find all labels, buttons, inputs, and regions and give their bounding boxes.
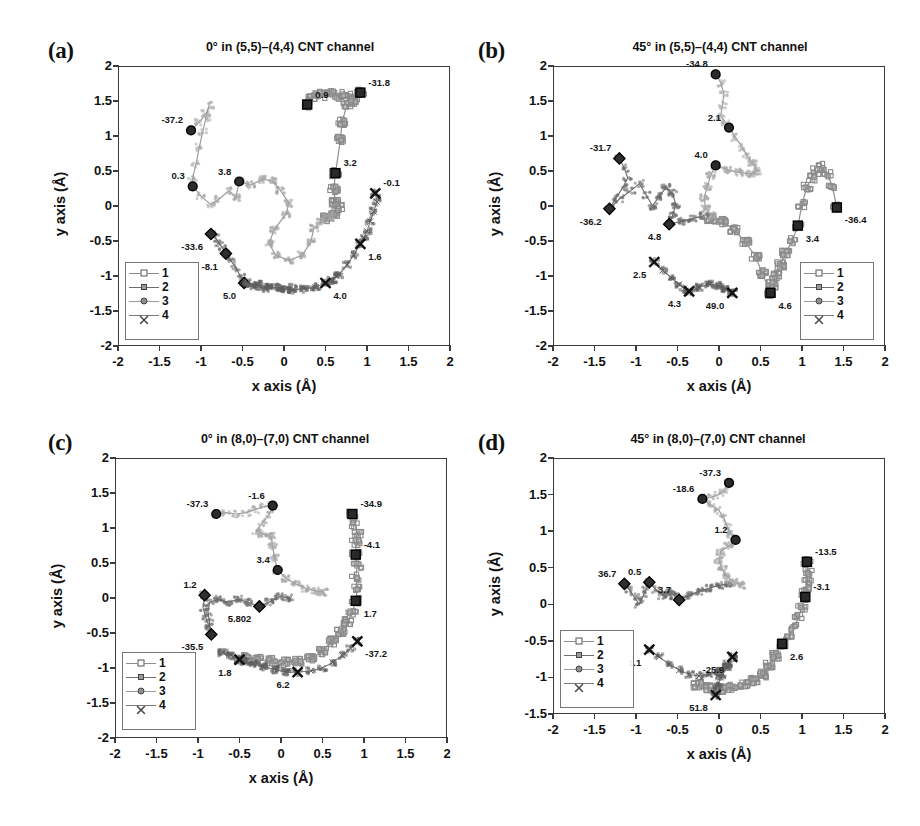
sample-point [807,586,811,590]
sample-point [722,514,725,517]
sample-point [752,677,756,681]
legend-item-1[interactable]: 1 [564,634,628,648]
data-point-label: -3.1 [813,581,847,592]
sample-point [764,675,768,679]
endpoint-marker [698,495,707,504]
legend-item-3[interactable]: 3 [564,662,628,676]
sample-point [716,512,719,515]
sample-point [789,629,793,633]
legend-swatch [564,649,594,661]
sample-point [793,624,797,628]
sample-point [714,490,717,493]
sample-point [774,650,778,654]
legend-label: 3 [597,662,604,676]
sample-point [724,577,727,580]
sample-point [729,579,732,582]
sample-point [720,556,723,559]
endpoint-marker [801,592,810,601]
legend-swatch [564,663,594,675]
sample-point [657,597,660,600]
sample-point [630,593,633,596]
sample-point [728,541,731,544]
legend-label: 4 [597,676,604,690]
sample-point [795,613,799,617]
sample-point [638,598,641,601]
figure-root: (a)0° in (5,5)–(4,4) CNT channel21.510.5… [0,0,920,826]
sample-point [750,682,754,686]
sample-point [799,605,803,609]
sample-point [720,492,723,495]
sample-point [721,690,725,694]
sample-point [720,581,723,584]
sample-point [746,680,750,684]
legend-d: 1234 [560,630,634,708]
sample-point [800,616,804,620]
data-point-label: 51.8 [674,702,708,713]
sample-point [690,591,693,594]
sample-point [635,603,638,606]
sample-point [729,523,732,526]
sample-point [724,583,727,586]
sample-point [714,508,717,511]
sample-point [735,578,738,581]
sample-point [743,685,747,689]
endpoint-marker [802,557,811,566]
sample-point [722,519,725,522]
sample-point [729,545,732,548]
sample-point [724,566,727,569]
sample-point [715,551,718,554]
legend-item-4[interactable]: 4 [564,676,628,690]
sample-point [705,584,708,587]
sample-point [771,655,775,659]
sample-point [670,597,673,600]
sample-point [739,585,742,588]
sample-point [802,578,806,582]
sample-point [701,588,704,591]
sample-point [713,494,716,497]
legend-marker-cross-x-icon [575,679,584,688]
legend-label: 2 [597,648,604,662]
sample-point [790,635,794,639]
sample-point [704,589,707,592]
endpoint-marker [731,536,740,545]
sample-point [716,549,719,552]
sample-point [730,530,733,533]
legend-swatch [564,635,594,647]
sample-point [697,591,700,594]
sample-point [810,568,814,572]
sample-point [694,592,697,595]
sample-point [707,493,710,496]
sample-point [728,575,731,578]
sample-point [709,588,712,591]
data-point-label: 3.7 [637,584,671,595]
legend-label: 1 [597,634,604,648]
data-point-label: 2.6 [790,651,824,662]
data-point-label: -18.6 [660,483,694,494]
data-point-label: -37.3 [687,467,721,478]
sample-point [645,595,648,598]
sample-point [723,542,726,545]
data-point-label: -13.5 [815,546,849,557]
sample-point [764,665,768,669]
data-point-label: 1.2 [694,524,728,535]
sample-point [770,662,774,666]
legend-item-2[interactable]: 2 [564,648,628,662]
sample-point [720,568,723,571]
sample-point [722,551,725,554]
sample-point [742,582,745,585]
sample-point [709,684,713,688]
sample-point [633,597,636,600]
sample-point [804,605,808,609]
sample-point [739,583,742,586]
legend-marker-open-square-icon [576,638,583,645]
sample-point [693,686,697,690]
sample-point [721,548,724,551]
sample-point [710,505,713,508]
sample-point [707,504,710,507]
sample-point [716,496,719,499]
sample-point [630,586,633,589]
sample-point [674,593,677,596]
sample-point [742,586,745,589]
sample-point [698,588,701,591]
sample-point [714,559,717,562]
